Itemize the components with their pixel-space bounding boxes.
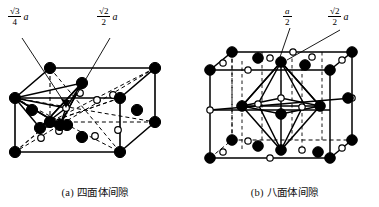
atom — [325, 153, 336, 164]
panel-tetrahedral-interstice: √3 4 a √2 2 a (a) 四面体间隙 — [0, 0, 190, 207]
interstice-site — [299, 104, 305, 110]
interstice-site — [115, 127, 122, 134]
interstice-site — [92, 133, 99, 140]
atom-octa-apex-bottom — [276, 145, 287, 156]
atom — [131, 104, 142, 115]
interstice-site — [245, 138, 251, 144]
atom — [276, 109, 287, 120]
fraction-numerator: √2 — [328, 6, 341, 17]
atom — [300, 60, 311, 71]
atom — [149, 116, 160, 127]
variable-a: a — [21, 12, 28, 22]
atom — [315, 101, 326, 112]
atom — [313, 147, 324, 158]
interstice-site — [339, 57, 345, 63]
variable-a: a — [110, 12, 117, 22]
atom — [347, 47, 358, 58]
interstice-site — [94, 97, 101, 104]
fraction-denominator: 2 — [328, 17, 341, 27]
atom — [227, 135, 238, 146]
interstice-site — [207, 107, 213, 113]
interstice-site — [245, 67, 251, 73]
interstice-site — [220, 149, 226, 155]
atom — [343, 93, 354, 104]
atom — [9, 146, 20, 157]
caption-panel-a: (a) 四面体间隙 — [0, 184, 190, 199]
atom — [149, 62, 160, 73]
interstice-site — [267, 155, 273, 161]
atom — [76, 131, 87, 142]
interstice-site — [255, 101, 261, 107]
atom — [227, 47, 238, 58]
fraction-numerator: a — [283, 6, 292, 17]
variable-a: a — [341, 12, 348, 22]
atom — [253, 141, 264, 152]
figure-root: √3 4 a √2 2 a (a) 四面体间隙 — [0, 0, 379, 207]
fraction-denominator: 2 — [97, 17, 110, 27]
atom-octa-apex-top — [276, 57, 287, 68]
annotation-sqrt3-over-4-a: √3 4 a — [8, 6, 28, 28]
atom — [114, 92, 125, 103]
atom — [34, 122, 45, 133]
fraction-denominator: 2 — [283, 17, 292, 27]
interstice-site — [220, 60, 226, 66]
fraction-sqrt2-over-2: √2 2 — [97, 6, 110, 28]
atom — [44, 62, 55, 73]
atom — [44, 116, 55, 127]
leader-lines — [22, 38, 110, 106]
annotation-a-over-2: a 2 — [283, 6, 292, 28]
leader-line-right — [70, 38, 110, 106]
atom — [237, 101, 248, 112]
panel-octahedral-interstice: a 2 √2 2 a (b) 八面体间隙 — [190, 0, 379, 207]
interstice-site-center — [278, 95, 284, 101]
atom — [205, 65, 216, 76]
atom — [325, 65, 336, 76]
tetrahedral-cell-diagram — [0, 0, 190, 175]
fraction-denominator: 4 — [8, 17, 21, 27]
annotation-sqrt2-over-2-a: √2 2 a — [97, 6, 117, 28]
atom — [114, 146, 125, 157]
fraction-sqrt3-over-4: √3 4 — [8, 6, 21, 28]
atom — [205, 153, 216, 164]
interstice-site — [309, 54, 315, 60]
fraction-a-over-2: a 2 — [283, 6, 292, 28]
fraction-numerator: √3 — [8, 6, 21, 17]
atom — [9, 92, 20, 103]
caption-panel-b: (b) 八面体间隙 — [190, 184, 379, 199]
interstice-site — [339, 145, 345, 151]
interstice-site — [290, 49, 296, 55]
annotation-sqrt2-over-2-a: √2 2 a — [328, 6, 348, 28]
atom — [26, 104, 37, 115]
fraction-numerator: √2 — [97, 6, 110, 17]
leader-line-left — [279, 28, 290, 60]
atom — [347, 135, 358, 146]
interstice-site — [299, 147, 305, 153]
atom — [54, 119, 65, 130]
interstice-site — [38, 135, 45, 142]
interstice-site — [267, 55, 273, 61]
fraction-sqrt2-over-2: √2 2 — [328, 6, 341, 28]
atom — [253, 53, 264, 64]
